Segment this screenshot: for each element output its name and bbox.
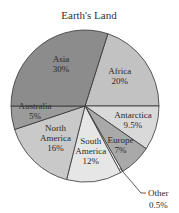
label-asia-name: Asia <box>53 54 70 64</box>
label-south-america-name: America <box>75 146 106 156</box>
label-africa-name: Africa <box>108 66 131 76</box>
label-australia-name: Australia <box>18 101 51 111</box>
label-asia-value: 30% <box>53 64 70 74</box>
label-north-america-name: America <box>40 133 71 143</box>
label-north-america-name: North <box>45 123 66 133</box>
label-north-america-value: 16% <box>47 143 64 153</box>
label-antarctica-name: Antarctica <box>114 110 151 120</box>
label-south-america-name: South <box>80 136 102 146</box>
label-africa-value: 20% <box>111 76 128 86</box>
label-south-america-value: 12% <box>83 156 100 166</box>
label-europe-value: 7% <box>115 145 128 155</box>
label-antarctica-value: 9.5% <box>124 120 143 130</box>
label-europe-name: Europe <box>108 135 134 145</box>
leader-line-other <box>120 168 146 193</box>
pie-chart: Earth's Land Africa20%Antarctica9.5%Euro… <box>0 0 179 213</box>
label-australia-value: 5% <box>29 111 42 121</box>
chart-title: Earth's Land <box>61 9 117 21</box>
label-other-name: Other <box>148 188 169 198</box>
label-other-value: 0.5% <box>149 200 168 210</box>
